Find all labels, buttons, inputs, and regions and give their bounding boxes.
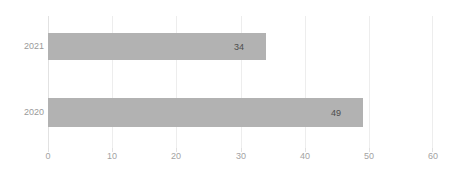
tick-label-40: 40 <box>290 152 320 161</box>
tick-label-10: 10 <box>97 152 127 161</box>
bar-value-2020: 49 <box>331 109 341 118</box>
tick-label-30: 30 <box>226 152 256 161</box>
gridline-50 <box>369 16 370 148</box>
gridline-40 <box>305 16 306 148</box>
tick-label-50: 50 <box>354 152 384 161</box>
tick-label-60: 60 <box>418 152 448 161</box>
category-label-2020: 2020 <box>0 108 44 117</box>
category-label-2021: 2021 <box>0 42 44 51</box>
bar-value-2021: 34 <box>234 43 244 52</box>
tick-label-0: 0 <box>33 152 63 161</box>
gridline-60 <box>432 16 433 148</box>
plot-area: 34 49 <box>48 16 433 148</box>
tick-label-20: 20 <box>161 152 191 161</box>
bar-2020[interactable] <box>48 98 363 127</box>
bar-chart: 2021 2020 34 49 0 10 20 30 40 50 60 <box>0 0 453 177</box>
category-axis: 2021 2020 <box>0 0 44 177</box>
